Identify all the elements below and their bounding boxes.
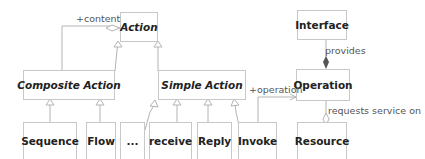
class-resource[interactable]: Resource xyxy=(297,122,347,159)
class-flow[interactable]: Flow xyxy=(86,122,116,159)
label-operation-role: +operation xyxy=(249,84,303,95)
class-ellipsis[interactable]: ... xyxy=(120,122,145,159)
class-operation[interactable]: Operation xyxy=(296,69,350,101)
composite-to-action-line xyxy=(115,44,118,71)
class-sequence[interactable]: Sequence xyxy=(23,122,77,159)
class-receive[interactable]: receive xyxy=(149,122,192,159)
provides-composition-diamond-icon xyxy=(323,56,329,69)
class-interface[interactable]: Interface xyxy=(297,10,347,40)
class-action[interactable]: Action xyxy=(120,12,158,42)
label-provides: provides xyxy=(325,45,366,56)
class-composite-action[interactable]: Composite Action xyxy=(23,70,115,100)
class-simple-action[interactable]: Simple Action xyxy=(158,70,246,100)
class-reply[interactable]: Reply xyxy=(197,122,232,159)
label-requests-service-on: requests service on xyxy=(328,105,421,116)
class-invoke[interactable]: Invoke xyxy=(238,122,277,159)
content-association-line xyxy=(62,26,118,71)
label-content: +content xyxy=(76,13,120,24)
